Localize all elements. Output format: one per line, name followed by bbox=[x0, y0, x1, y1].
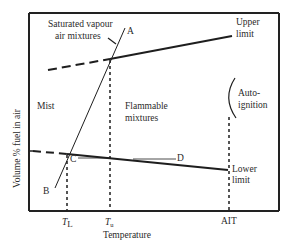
lower-limit-line bbox=[67, 154, 228, 170]
lower-limit-label-2: limit bbox=[232, 175, 250, 185]
saturated-pointer bbox=[108, 38, 116, 44]
x-axis-title: Temperature bbox=[103, 230, 151, 240]
lower-limit-dashed bbox=[33, 151, 67, 154]
upper-limit-label-2: limit bbox=[236, 29, 254, 39]
saturated-label-2: air mixtures bbox=[55, 31, 101, 41]
flammable-label-2: mixtures bbox=[125, 113, 159, 123]
x-tick-tl: TL bbox=[62, 217, 73, 229]
upper-limit-dashed bbox=[48, 59, 110, 70]
autoignition-label-2: ignition bbox=[238, 100, 268, 110]
y-axis-title: Volume % fuel in air bbox=[12, 108, 22, 188]
autoignition-arc bbox=[229, 78, 236, 118]
point-b-label: B bbox=[43, 186, 49, 196]
lower-limit-label-1: Lower bbox=[232, 164, 258, 174]
saturated-label-1: Saturated vapour bbox=[48, 19, 113, 29]
mist-label: Mist bbox=[37, 101, 55, 111]
x-tick-tu: Tu bbox=[105, 217, 114, 228]
point-d-label: D bbox=[177, 153, 184, 163]
point-c-label: C bbox=[70, 154, 76, 164]
autoignition-label-1: Auto- bbox=[238, 88, 260, 98]
point-a-label: A bbox=[127, 26, 134, 36]
flammable-label-1: Flammable bbox=[125, 101, 168, 111]
flammability-diagram: Saturated vapour air mixtures A Upper li… bbox=[0, 0, 293, 252]
saturation-line-ab bbox=[55, 28, 125, 188]
upper-limit-line bbox=[110, 36, 232, 59]
x-tick-ait: AIT bbox=[221, 216, 237, 226]
upper-limit-label-1: Upper bbox=[236, 17, 261, 27]
